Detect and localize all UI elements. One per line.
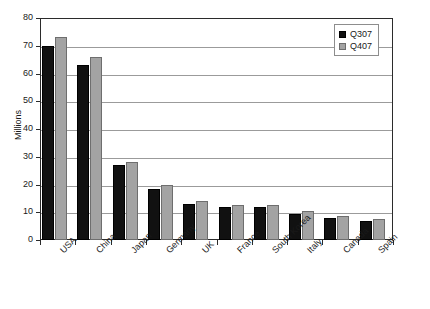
y-axis-tick: 50	[0, 101, 40, 102]
legend-item: Q307	[339, 28, 372, 40]
y-axis-tick-label: 0	[28, 233, 33, 246]
bar-group	[75, 18, 110, 240]
y-axis-tick-label: 30	[23, 150, 33, 163]
legend-item-label: Q407	[350, 41, 372, 51]
bar-group	[111, 18, 146, 240]
bar-chart: Millions 80706050403020100 USAChinaJapan…	[0, 0, 430, 309]
y-axis-tick-label: 60	[23, 67, 33, 80]
bar	[42, 46, 54, 240]
bar	[55, 37, 67, 240]
y-axis-tick-label: 40	[23, 122, 33, 135]
bar	[148, 189, 160, 240]
y-axis-tick: 70	[0, 46, 40, 47]
bar-group	[146, 18, 181, 240]
x-axis-tick	[40, 240, 41, 245]
y-axis-tick: 40	[0, 129, 40, 130]
bar-group	[287, 18, 322, 240]
bar	[126, 162, 138, 240]
bar-group	[181, 18, 216, 240]
bar	[161, 185, 173, 241]
bar	[77, 65, 89, 240]
bar	[232, 205, 244, 240]
bar	[113, 165, 125, 240]
y-axis-tick-label: 20	[23, 178, 33, 191]
y-axis-tick: 60	[0, 74, 40, 75]
black-square-icon	[339, 31, 346, 38]
y-axis-tick-label: 50	[23, 94, 33, 107]
y-axis-title: Millions	[13, 85, 23, 165]
y-axis-tick: 10	[0, 212, 40, 213]
y-axis-tick: 30	[0, 157, 40, 158]
bar	[196, 201, 208, 240]
y-axis-tick: 20	[0, 185, 40, 186]
legend-item: Q407	[339, 40, 372, 52]
y-axis-tick: 80	[0, 18, 40, 19]
bar	[90, 57, 102, 240]
x-axis-tick-label: UK	[200, 239, 216, 255]
y-axis-tick: 0	[0, 240, 40, 241]
bar-group	[40, 18, 75, 240]
y-axis-tick-label: 80	[23, 11, 33, 24]
x-axis-tick	[217, 240, 218, 245]
bar	[219, 207, 231, 240]
bar-group	[252, 18, 287, 240]
legend: Q307 Q407	[334, 24, 379, 56]
y-axis-tick-label: 70	[23, 39, 33, 52]
bar	[337, 216, 349, 240]
y-axis-tick-label: 10	[23, 205, 33, 218]
gray-square-icon	[339, 43, 346, 50]
bar	[267, 205, 279, 240]
legend-item-label: Q307	[350, 29, 372, 39]
bar-group	[217, 18, 252, 240]
bar	[373, 219, 385, 240]
bar	[324, 218, 336, 240]
